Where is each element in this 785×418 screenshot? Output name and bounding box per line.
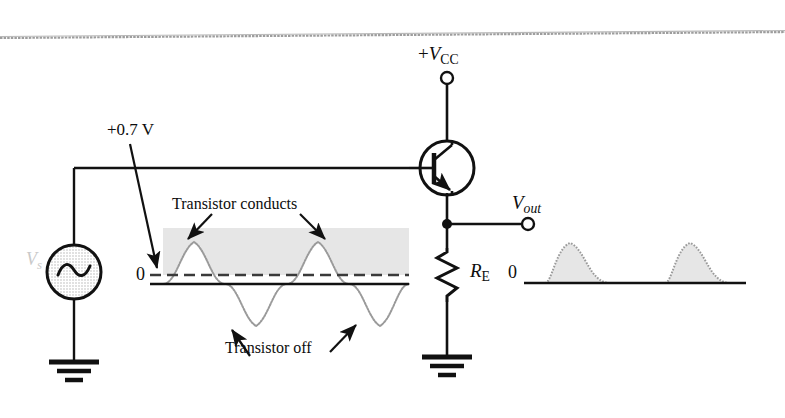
supply-voltage-label: +VCC (418, 44, 459, 67)
output-voltage-label: Vout (512, 193, 541, 216)
transistor-conducts-annotation: Transistor conducts (172, 196, 297, 212)
scan-top-rule (0, 31, 785, 39)
emitter-resistor-symbol (437, 248, 457, 355)
emitter-resistor-label: RE (470, 261, 490, 284)
circuit-figure: +VCC +0.7 V Vout RE Vs Transistor conduc… (0, 0, 785, 418)
input-zero-axis-label: 0 (136, 265, 145, 283)
input-waveform-plot (150, 228, 409, 326)
output-zero-axis-label: 0 (508, 263, 517, 281)
ground-symbol-left (49, 362, 99, 380)
npn-transistor-symbol (409, 141, 474, 196)
bias-voltage-pointer (130, 144, 157, 268)
conduction-shading (163, 228, 409, 326)
bias-voltage-label: +0.7 V (107, 121, 154, 138)
output-waveform-plot (524, 243, 746, 283)
source-voltage-label: Vs (26, 250, 42, 272)
transistor-off-annotation: Transistor off (225, 340, 312, 356)
ground-symbol-right (422, 357, 472, 375)
circuit-diagram-canvas (0, 0, 785, 418)
supply-terminal (441, 72, 453, 141)
